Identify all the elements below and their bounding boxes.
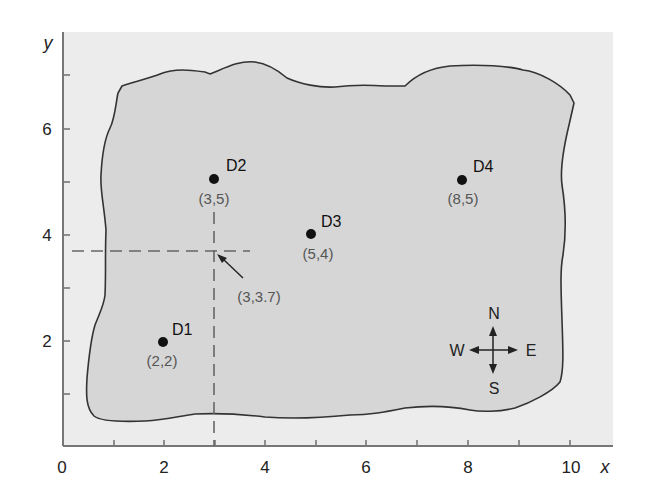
- y-tick-label-4: 4: [42, 226, 51, 245]
- point-name: D4: [473, 158, 494, 175]
- point-name: D2: [226, 157, 247, 174]
- y-tick-label-2: 2: [42, 332, 51, 351]
- point-marker: [158, 337, 168, 347]
- point-coord: (2,2): [147, 352, 178, 369]
- point-marker: [306, 229, 316, 239]
- location-diagram: 0 2 4 6 8 10 x 2 4 6 y (3,3.7) D1 (2,2) …: [0, 0, 649, 499]
- compass-west-label: W: [449, 342, 465, 359]
- point-marker: [209, 174, 219, 184]
- point-coord: (8,5): [448, 190, 479, 207]
- point-coord: (5,4): [303, 245, 334, 262]
- annotation-label: (3,3.7): [237, 288, 280, 305]
- x-tick-label-0: 0: [57, 458, 66, 477]
- point-coord: (3,5): [199, 190, 230, 207]
- compass-east-label: E: [526, 342, 537, 359]
- x-axis-title: x: [600, 457, 611, 477]
- point-marker: [457, 175, 467, 185]
- x-tick-label-2: 2: [159, 458, 168, 477]
- compass-south-label: S: [489, 380, 500, 397]
- x-tick-label-4: 4: [260, 458, 269, 477]
- point-name: D1: [172, 321, 193, 338]
- y-tick-label-6: 6: [42, 120, 51, 139]
- y-axis-title: y: [42, 33, 54, 53]
- compass-north-label: N: [488, 305, 500, 322]
- x-tick-label-6: 6: [361, 458, 370, 477]
- x-tick-label-8: 8: [463, 458, 472, 477]
- x-tick-label-10: 10: [562, 458, 581, 477]
- point-name: D3: [321, 213, 342, 230]
